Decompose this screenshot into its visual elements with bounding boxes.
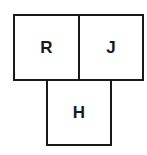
box-j: J <box>78 14 144 81</box>
box-r: R <box>13 14 80 81</box>
box-h: H <box>46 79 112 146</box>
box-label-j: J <box>106 38 115 58</box>
box-label-r: R <box>40 38 52 58</box>
box-label-h: H <box>73 103 85 123</box>
